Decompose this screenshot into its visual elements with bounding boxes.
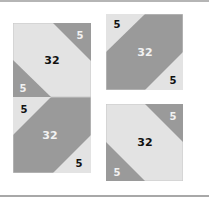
tile-top-right: 32 5 5 (106, 14, 183, 90)
tile-bottom-left: 32 5 5 (13, 97, 91, 173)
corner-value-top-left: 5 (21, 104, 28, 115)
corner-value-bottom-right: 5 (170, 75, 177, 86)
tile-top-left: 32 5 5 (13, 23, 91, 97)
corner-value-top-left: 5 (114, 19, 121, 30)
center-value: 32 (42, 129, 57, 142)
center-value: 32 (137, 46, 152, 59)
top-divider (0, 0, 209, 2)
corner-value-top-right: 5 (170, 111, 177, 122)
center-value: 32 (44, 54, 59, 67)
corner-value-bottom-right: 5 (76, 158, 83, 169)
tile-bottom-right: 32 5 5 (106, 104, 183, 181)
bottom-divider (0, 195, 209, 197)
corner-value-top-right: 5 (77, 30, 84, 41)
corner-value-bottom-left: 5 (20, 83, 27, 94)
center-value: 32 (137, 136, 152, 149)
corner-value-bottom-left: 5 (114, 167, 121, 178)
